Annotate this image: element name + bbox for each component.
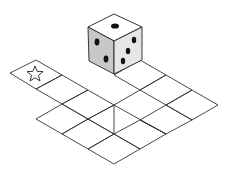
tile <box>88 134 140 164</box>
tile <box>88 105 114 134</box>
pip <box>104 56 109 63</box>
tile <box>114 120 166 149</box>
star-icon <box>27 66 43 81</box>
pip <box>111 23 119 28</box>
pip <box>126 48 130 54</box>
tile <box>62 90 114 119</box>
tile <box>36 104 88 134</box>
pip <box>132 37 136 43</box>
board-diagram <box>0 0 229 171</box>
die <box>88 14 142 74</box>
tile-path <box>10 60 218 164</box>
tile <box>140 75 192 105</box>
tile <box>62 119 114 149</box>
tile <box>36 75 88 104</box>
pip <box>95 39 100 46</box>
tile <box>140 105 192 134</box>
pip <box>121 58 125 64</box>
tile <box>166 90 218 120</box>
extra-lines <box>114 75 166 134</box>
